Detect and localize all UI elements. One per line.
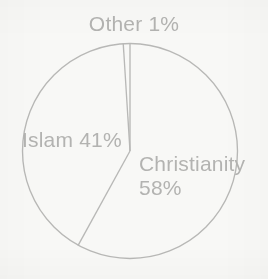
pie-slice-label-other: Other 1%: [0, 12, 268, 36]
pie-slice-label-islam: Islam 41%: [22, 128, 122, 152]
pie-divider-islam: [78, 151, 130, 246]
pie-divider-other: [123, 43, 130, 151]
pie-slice-label-christianity: Christianity 58%: [139, 152, 245, 199]
pie-slice-label-christianity-name: Christianity: [139, 152, 245, 175]
pie-slice-label-christianity-value: 58%: [139, 176, 245, 200]
pie-chart-figure: Other 1% Islam 41% Christianity 58%: [0, 0, 268, 279]
